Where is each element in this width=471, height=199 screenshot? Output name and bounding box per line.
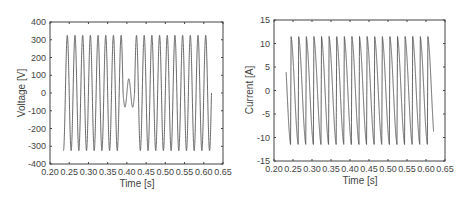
x-tick-label: 0.60 (417, 164, 435, 174)
y-tick-label: 200 (31, 53, 46, 63)
x-tick-label: 0.50 (379, 164, 397, 174)
y-tick-label: -400 (28, 159, 46, 169)
current-series-line (286, 36, 433, 144)
y-tick-label: -100 (28, 106, 46, 116)
y-tick-label: -15 (257, 156, 270, 166)
x-tick-label: 0.45 (360, 164, 378, 174)
x-axis-label: Time [s] (119, 178, 154, 189)
x-tick-label: 0.55 (176, 167, 194, 177)
x-tick-label: 0.65 (214, 167, 232, 177)
y-tick-label: 5 (265, 62, 270, 72)
y-tick-label: 400 (31, 17, 46, 27)
x-tick-label: 0.25 (284, 164, 302, 174)
x-tick-label: 0.25 (60, 167, 78, 177)
y-tick-label: 0 (265, 86, 270, 96)
y-tick-label: 100 (31, 70, 46, 80)
y-tick-label: -5 (262, 109, 270, 119)
x-tick-label: 0.35 (322, 164, 340, 174)
y-tick-label: 10 (260, 39, 270, 49)
y-tick-label: 15 (260, 15, 270, 25)
y-tick-label: -200 (28, 124, 46, 134)
x-tick-label: 0.45 (137, 167, 155, 177)
y-tick-label: 300 (31, 35, 46, 45)
x-tick-label: 0.30 (80, 167, 98, 177)
x-tick-label: 0.55 (398, 164, 416, 174)
y-tick-label: -10 (257, 133, 270, 143)
x-tick-label: 0.30 (303, 164, 321, 174)
x-tick-label: 0.40 (341, 164, 359, 174)
y-axis-label: Current [A] (244, 66, 255, 115)
y-axis-label: Voltage [V] (16, 69, 27, 118)
x-tick-label: 0.50 (157, 167, 175, 177)
y-tick-label: -300 (28, 141, 46, 151)
voltage-chart: Voltage [V] Time [s] 0.200.250.300.350.4… (0, 0, 236, 199)
x-axis-label: Time [s] (342, 175, 377, 186)
x-tick-label: 0.60 (195, 167, 213, 177)
x-tick-label: 0.35 (99, 167, 117, 177)
current-chart: Current [A] Time [s] 0.200.250.300.350.4… (236, 0, 471, 199)
x-tick-label: 0.65 (436, 164, 454, 174)
current-plot: Current [A] Time [s] 0.200.250.300.350.4… (236, 0, 471, 199)
y-tick-label: 0 (41, 88, 46, 98)
voltage-plot: Voltage [V] Time [s] 0.200.250.300.350.4… (0, 0, 236, 199)
x-tick-label: 0.40 (118, 167, 136, 177)
voltage-series-line (63, 35, 211, 150)
